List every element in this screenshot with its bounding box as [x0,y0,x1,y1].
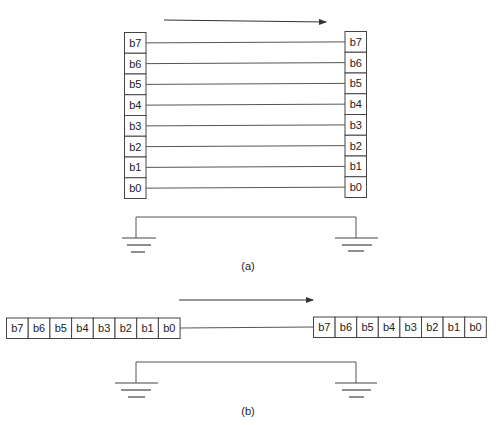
bit-cell: b2 [125,136,147,157]
bit-label: b7 [318,321,330,333]
bit-label: b6 [350,57,362,69]
bit-cell: b1 [137,318,159,339]
bit-cell: b1 [443,317,465,338]
figure-a-parallel: b7b6b5b4b3b2b1b0 b7b6b5b4b3b2b1b0 (a) [122,20,378,272]
bit-label: b7 [11,322,23,334]
bit-cell: b6 [335,317,357,338]
ground-left-icon [115,383,158,397]
bit-label: b3 [350,119,362,131]
data-line [146,83,345,84]
direction-arrow-icon [164,20,326,22]
bit-label: b6 [340,321,352,333]
data-line [146,63,345,64]
bit-label: b3 [129,120,141,132]
bit-label: b1 [141,322,153,334]
bit-label: b6 [129,58,141,70]
bit-label: b0 [129,182,141,194]
bit-label: b5 [129,78,141,90]
bit-label: b3 [98,322,110,334]
bit-cell: b2 [115,318,137,339]
sender-register-b: b7b6b5b4b3b2b1b0 [7,318,181,339]
bit-cell: b0 [125,178,147,199]
parallel-wires [146,42,345,188]
bit-label: b2 [350,140,362,152]
bit-cell: b3 [345,115,367,136]
bit-label: b2 [129,141,141,153]
bit-cell: b2 [345,135,367,156]
bit-cell: b4 [378,317,400,338]
bit-cell: b7 [7,318,29,339]
data-line [146,42,345,43]
data-line [146,187,345,188]
bit-cell: b5 [50,318,72,339]
bit-cell: b4 [72,318,94,339]
bit-label: b1 [448,321,460,333]
bit-cell: b6 [28,318,50,339]
caption-a: (a) [241,260,254,272]
bit-label: b2 [120,322,132,334]
bit-label: b7 [350,36,362,48]
bit-cell: b0 [158,318,180,339]
bit-cell: b2 [422,317,444,338]
bit-cell: b3 [125,116,147,137]
serial-wire [180,327,313,328]
ground-right-icon [335,238,378,251]
ground-connection-b [115,362,377,397]
bit-cell: b0 [345,177,367,198]
caption-b: (b) [241,405,254,417]
bit-cell: b1 [125,157,147,178]
data-line [146,146,345,147]
bit-cell: b3 [400,317,422,338]
ground-right-icon [335,383,377,397]
bit-cell: b6 [125,53,147,74]
bit-label: b6 [33,322,45,334]
receiver-register-b: b7b6b5b4b3b2b1b0 [314,317,487,338]
ground-connection-a [122,217,378,252]
bit-label: b1 [350,160,362,172]
figure-b-serial: b7b6b5b4b3b2b1b0 b7b6b5b4b3b2b1b0 (b) [7,300,487,417]
bit-label: b2 [426,321,438,333]
data-line [146,166,345,167]
bit-cell: b7 [345,32,367,53]
data-line [146,104,345,105]
bit-cell: b1 [345,156,367,177]
bit-cell: b4 [345,94,367,115]
bit-label: b4 [383,321,395,333]
bit-label: b4 [129,99,141,111]
bit-label: b0 [469,321,481,333]
bit-cell: b0 [465,317,487,338]
transmission-diagram: b7b6b5b4b3b2b1b0 b7b6b5b4b3b2b1b0 (a) b7… [0,0,500,425]
bit-cell: b5 [345,73,367,94]
ground-left-icon [122,238,156,252]
bit-label: b4 [350,98,362,110]
bit-cell: b4 [125,95,147,116]
receiver-register-a: b7b6b5b4b3b2b1b0 [345,32,367,198]
data-line [146,125,345,126]
bit-label: b5 [361,321,373,333]
bit-label: b5 [55,322,67,334]
bit-cell: b5 [125,74,147,95]
bit-label: b7 [129,37,141,49]
bit-cell: b5 [357,317,379,338]
bit-label: b1 [129,161,141,173]
bit-label: b3 [405,321,417,333]
bit-cell: b7 [125,33,147,54]
bit-label: b4 [76,322,88,334]
bit-label: b0 [350,181,362,193]
bit-cell: b7 [314,317,336,338]
bit-cell: b6 [345,52,367,73]
bit-label: b0 [163,322,175,334]
sender-register-a: b7b6b5b4b3b2b1b0 [125,33,147,199]
bit-label: b5 [350,77,362,89]
bit-cell: b3 [93,318,115,339]
